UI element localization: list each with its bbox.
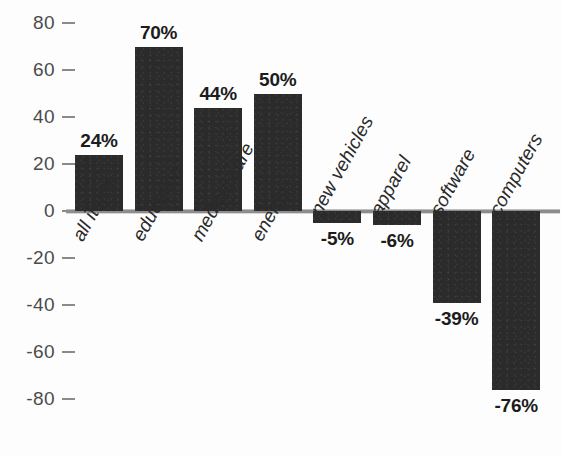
- y-axis-tick-label: 0: [44, 201, 55, 220]
- y-axis-tick-mark: [62, 351, 75, 353]
- y-axis-tick-mark: [62, 304, 75, 306]
- y-axis-tick-mark: [62, 398, 75, 400]
- plot-area: 24%all items70%education44%medical care5…: [75, 0, 562, 456]
- y-axis-tick-mark: [62, 257, 75, 259]
- bar-value-label: 50%: [242, 69, 314, 91]
- bar-value-label: -6%: [361, 230, 433, 252]
- y-axis-tick-label: -40: [26, 295, 55, 314]
- y-axis-tick-mark: [62, 22, 75, 24]
- y-axis-tick-label: 80: [33, 13, 55, 32]
- y-axis-tick-label: -80: [26, 389, 55, 408]
- y-axis-tick-mark: [62, 69, 75, 71]
- y-axis-tick-mark: [62, 163, 75, 165]
- category-label: software: [425, 145, 479, 219]
- y-axis-tick-label: 20: [33, 154, 55, 173]
- bar: [492, 211, 540, 390]
- y-axis-tick-label: 40: [33, 107, 55, 126]
- y-axis-tick-label: -60: [26, 342, 55, 361]
- y-axis-tick-label: 60: [33, 60, 55, 79]
- bar: [433, 211, 481, 303]
- bar-value-label: -39%: [421, 308, 493, 330]
- bar-chart: 806040200-20-40-60-80 24%all items70%edu…: [0, 0, 562, 456]
- bar-value-label: 70%: [123, 22, 195, 44]
- category-label: computers: [485, 130, 548, 219]
- y-axis-tick-label: -20: [26, 248, 55, 267]
- bar-value-label: 24%: [63, 130, 135, 152]
- y-axis-tick-mark: [62, 116, 75, 118]
- bar-value-label: -76%: [480, 395, 552, 417]
